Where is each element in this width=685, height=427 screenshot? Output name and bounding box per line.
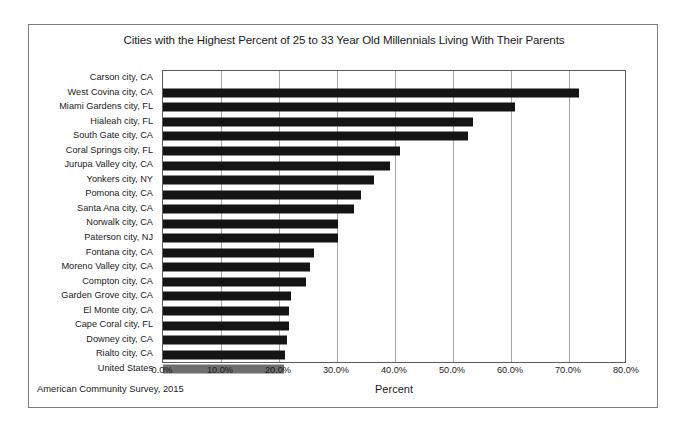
category-label: South Gate city, CA bbox=[29, 128, 157, 143]
category-label: Norwalk city, CA bbox=[29, 215, 157, 230]
bar bbox=[163, 88, 579, 97]
x-tick-label: 0.0% bbox=[152, 365, 173, 375]
bar bbox=[163, 336, 287, 345]
category-label: Santa Ana city, CA bbox=[29, 201, 157, 216]
bar bbox=[163, 147, 400, 156]
x-tick-label: 50.0% bbox=[439, 365, 465, 375]
category-label: Downey city, CA bbox=[29, 332, 157, 347]
category-label: Paterson city, NJ bbox=[29, 230, 157, 245]
category-label: Rialto city, CA bbox=[29, 346, 157, 361]
category-label: Jurupa Valley city, CA bbox=[29, 157, 157, 172]
x-tick-label: 60.0% bbox=[497, 365, 523, 375]
bar bbox=[163, 190, 361, 199]
bar bbox=[163, 350, 285, 359]
category-label: Fontana city, CA bbox=[29, 245, 157, 260]
bar-row bbox=[163, 289, 625, 304]
x-axis-tick-labels: 0.0%10.0%20.0%30.0%40.0%50.0%60.0%70.0%8… bbox=[162, 365, 626, 381]
chart-figure: Cities with the Highest Percent of 25 to… bbox=[28, 24, 658, 408]
category-label: United States bbox=[29, 361, 157, 376]
x-tick-label: 70.0% bbox=[555, 365, 581, 375]
bar bbox=[163, 103, 515, 112]
bar bbox=[163, 161, 390, 170]
bar bbox=[163, 307, 289, 316]
x-tick-label: 10.0% bbox=[207, 365, 233, 375]
bar bbox=[163, 176, 374, 185]
bar-row bbox=[163, 129, 625, 144]
bar bbox=[163, 234, 338, 243]
bar bbox=[163, 321, 289, 330]
bar-row bbox=[163, 275, 625, 290]
category-label: Cape Coral city, FL bbox=[29, 317, 157, 332]
x-axis-title: Percent bbox=[162, 383, 626, 395]
bar bbox=[163, 292, 291, 301]
category-label: Hialeah city, FL bbox=[29, 114, 157, 129]
bar-row bbox=[163, 333, 625, 348]
bar-row bbox=[163, 100, 625, 115]
bar-row bbox=[163, 304, 625, 319]
bar bbox=[163, 205, 354, 214]
category-label: Miami Gardens city, FL bbox=[29, 99, 157, 114]
category-axis-labels: Carson city, CAWest Covina city, CAMiami… bbox=[29, 70, 157, 363]
category-label: Coral Springs city, FL bbox=[29, 143, 157, 158]
bar-row bbox=[163, 173, 625, 188]
x-tick-label: 30.0% bbox=[323, 365, 349, 375]
category-label: Carson city, CA bbox=[29, 70, 157, 85]
category-label: El Monte city, CA bbox=[29, 303, 157, 318]
bar-row bbox=[163, 86, 625, 101]
bar bbox=[163, 248, 314, 257]
bar-row bbox=[163, 216, 625, 231]
bar-row bbox=[163, 144, 625, 159]
bar-row bbox=[163, 260, 625, 275]
category-label: Compton city, CA bbox=[29, 274, 157, 289]
bar-row bbox=[163, 318, 625, 333]
category-label: West Covina city, CA bbox=[29, 85, 157, 100]
bar-row bbox=[163, 347, 625, 362]
bar-row bbox=[163, 158, 625, 173]
chart-title: Cities with the Highest Percent of 25 to… bbox=[59, 33, 629, 48]
x-tick-label: 40.0% bbox=[381, 365, 407, 375]
bar-row bbox=[163, 231, 625, 246]
x-tick-label: 80.0% bbox=[613, 365, 639, 375]
category-label: Garden Grove city, CA bbox=[29, 288, 157, 303]
category-label: Moreno Valley city, CA bbox=[29, 259, 157, 274]
x-tick-label: 20.0% bbox=[265, 365, 291, 375]
bar-row bbox=[163, 71, 625, 86]
bar bbox=[163, 277, 306, 286]
category-label: Yonkers city, NY bbox=[29, 172, 157, 187]
bar bbox=[163, 263, 310, 272]
category-label: Pomona city, CA bbox=[29, 186, 157, 201]
bar bbox=[163, 117, 473, 126]
plot-area bbox=[162, 70, 626, 363]
bar bbox=[163, 219, 338, 228]
bar-row bbox=[163, 246, 625, 261]
bar-row bbox=[163, 115, 625, 130]
bar bbox=[163, 132, 468, 141]
bar-row bbox=[163, 187, 625, 202]
source-note: American Community Survey, 2015 bbox=[37, 383, 184, 394]
bar-row bbox=[163, 202, 625, 217]
bar-series bbox=[163, 71, 625, 362]
